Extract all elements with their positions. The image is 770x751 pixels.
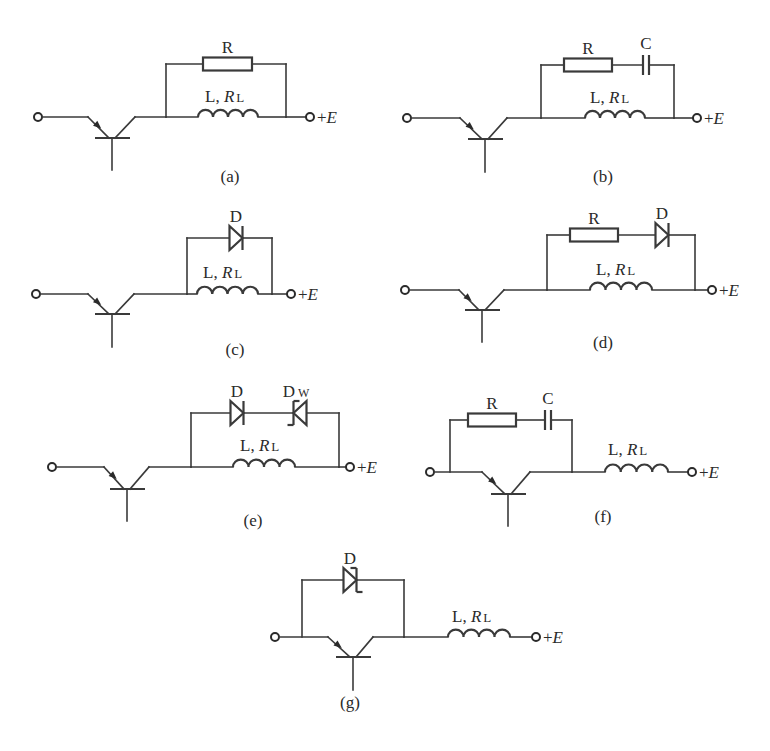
supply-e: E [708, 463, 720, 482]
inductor-label-r: R [470, 607, 482, 626]
inductor-label: L, RL [596, 260, 635, 279]
supply-plus: + [719, 281, 729, 300]
component-label-capacitor: C [542, 389, 553, 408]
inductor-label-r: R [614, 260, 626, 279]
output-terminal[interactable] [287, 290, 295, 298]
inductor-label-subscript: L [627, 263, 635, 278]
input-terminal[interactable] [403, 114, 411, 122]
supply-e: E [307, 285, 319, 304]
inductor-label: L, RL [203, 263, 242, 282]
inductor-label-subscript: L [234, 266, 242, 281]
subfigure-caption: (b) [593, 167, 613, 186]
output-terminal[interactable] [532, 633, 540, 641]
supply-label: +E [543, 628, 564, 647]
inductor-label-l: L, [596, 260, 615, 279]
output-terminal[interactable] [708, 286, 716, 294]
supply-plus: + [357, 458, 367, 477]
input-terminal[interactable] [48, 463, 56, 471]
inductor-label-subscript: L [236, 90, 244, 105]
supply-label: +E [298, 285, 319, 304]
inductor-label-subscript: L [483, 610, 491, 625]
supply-label: +E [719, 281, 740, 300]
supply-label: +E [317, 108, 338, 127]
component-label-resistor: R [486, 394, 498, 413]
component-label-resistor: R [588, 209, 600, 228]
inductor-label: L, RL [608, 440, 647, 459]
inductor-label-l: L, [205, 87, 224, 106]
inductor-label-r: R [223, 87, 235, 106]
subfigure-caption: (a) [221, 167, 240, 186]
inductor-label-subscript: L [271, 439, 279, 454]
input-terminal[interactable] [34, 113, 42, 121]
component-label-diode: D [230, 207, 242, 226]
supply-e: E [713, 109, 725, 128]
subfigure-caption: (e) [244, 511, 263, 530]
subfigure-caption: (c) [226, 340, 245, 359]
output-terminal[interactable] [693, 114, 701, 122]
output-terminal[interactable] [306, 113, 314, 121]
input-terminal[interactable] [401, 286, 409, 294]
supply-plus: + [543, 628, 553, 647]
component-label-resistor: R [582, 39, 594, 58]
input-terminal[interactable] [426, 468, 434, 476]
inductor-label-l: L, [590, 88, 609, 107]
inductor-label: L, RL [452, 607, 491, 626]
component-label-resistor: R [222, 38, 234, 57]
input-terminal[interactable] [271, 633, 279, 641]
component-label-zener: D [344, 549, 356, 568]
output-terminal[interactable] [346, 463, 354, 471]
supply-label: +E [704, 109, 725, 128]
inductor-label-l: L, [203, 263, 222, 282]
label-subscript: W [298, 386, 310, 400]
inductor-label-subscript: L [621, 91, 629, 106]
subfigure-caption: (f) [595, 507, 612, 526]
component-label-diode: D [231, 382, 243, 401]
inductor-label-r: R [221, 263, 233, 282]
supply-e: E [326, 108, 338, 127]
supply-e: E [552, 628, 564, 647]
input-terminal[interactable] [32, 290, 40, 298]
subfigure-caption: (d) [593, 333, 613, 352]
inductor-label-subscript: L [639, 443, 647, 458]
inductor-label-r: R [258, 436, 270, 455]
inductor-label: L, RL [240, 436, 279, 455]
output-terminal[interactable] [688, 468, 696, 476]
circuit-figure: RL, RL+E(a)RCL, RL+E(b)DL, RL+E(c)RDL, R… [0, 0, 770, 751]
inductor-label-r: R [626, 440, 638, 459]
supply-plus: + [704, 109, 714, 128]
inductor-label-l: L, [240, 436, 259, 455]
supply-plus: + [298, 285, 308, 304]
inductor-label-r: R [608, 88, 620, 107]
inductor-label: L, RL [205, 87, 244, 106]
supply-label: +E [699, 463, 720, 482]
component-label-capacitor: C [640, 34, 651, 53]
inductor-label: L, RL [590, 88, 629, 107]
supply-label: +E [357, 458, 378, 477]
subfigure-caption: (g) [340, 693, 360, 712]
supply-plus: + [317, 108, 327, 127]
component-label-diode: D [656, 204, 668, 223]
supply-e: E [728, 281, 740, 300]
inductor-label-l: L, [608, 440, 627, 459]
supply-plus: + [699, 463, 709, 482]
inductor-label-l: L, [452, 607, 471, 626]
supply-e: E [366, 458, 378, 477]
